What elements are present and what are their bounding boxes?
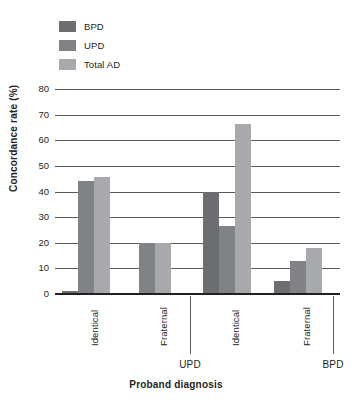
- bar-bpd-group3: [203, 192, 219, 295]
- bar-total-ad-group2: [155, 243, 171, 294]
- chart-legend: BPD UPD Total AD: [59, 18, 179, 75]
- legend-item-total-ad: Total AD: [59, 56, 179, 72]
- legend-label-total-ad: Total AD: [84, 59, 120, 70]
- x-axis-line: [55, 293, 340, 295]
- group-separator-2: [333, 296, 334, 354]
- x-group-label-upd: UPD: [179, 360, 201, 370]
- legend-swatch-icon-bpd: [59, 21, 76, 32]
- y-tick-label-70: 70: [38, 110, 49, 120]
- legend-item-upd: UPD: [59, 37, 179, 53]
- legend-swatch-icon-upd: [59, 40, 76, 51]
- x-category-label-2: Fraternal: [159, 307, 169, 346]
- y-tick-label-10: 10: [38, 264, 49, 274]
- bar-total-ad-group1: [94, 177, 110, 294]
- y-tick-label-30: 30: [38, 212, 49, 222]
- bar-total-ad-group4: [306, 248, 322, 294]
- x-category-label-4: Fraternal: [302, 307, 312, 346]
- y-tick-label-0: 0: [44, 289, 49, 299]
- bar-upd-group3: [219, 226, 235, 294]
- bar-upd-group1: [78, 181, 94, 294]
- bar-upd-group2: [139, 243, 155, 294]
- x-group-label-bpd: BPD: [322, 360, 343, 370]
- x-axis-title: Proband diagnosis: [0, 379, 352, 390]
- bar-upd-group4: [290, 261, 306, 294]
- y-tick-label-60: 60: [38, 136, 49, 146]
- bar-total-ad-group3: [235, 124, 251, 294]
- plot-area: 01020304050607080: [55, 89, 340, 294]
- bar-chart-figure: BPD UPD Total AD 01020304050607080 Ident…: [0, 0, 352, 403]
- legend-swatch-icon-total-ad: [59, 59, 76, 70]
- y-tick-label-40: 40: [38, 187, 49, 197]
- legend-label-upd: UPD: [84, 40, 104, 51]
- x-category-label-1: Identical: [90, 310, 100, 346]
- y-tick-label-50: 50: [38, 161, 49, 171]
- legend-item-bpd: BPD: [59, 18, 179, 34]
- bar-series-container: [55, 89, 340, 294]
- bar-bpd-group4: [274, 281, 290, 294]
- legend-label-bpd: BPD: [84, 21, 104, 32]
- y-tick-label-20: 20: [38, 238, 49, 248]
- y-tick-label-80: 80: [38, 84, 49, 94]
- x-category-label-3: Identical: [231, 310, 241, 346]
- group-separator-1: [190, 296, 191, 354]
- y-axis-title: Concordance rate (%): [8, 85, 19, 192]
